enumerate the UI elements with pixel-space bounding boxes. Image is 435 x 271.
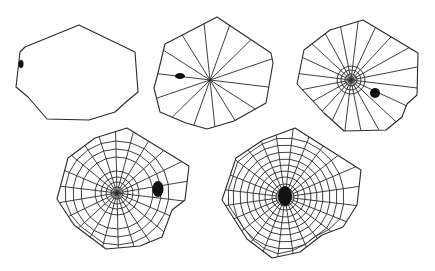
- spider-icon: [175, 73, 185, 79]
- web-stage-2: [154, 17, 273, 129]
- radial-thread: [72, 155, 118, 193]
- web-stage-1: [16, 25, 138, 120]
- radial-thread: [313, 80, 351, 101]
- spider-icon: [370, 88, 380, 98]
- web-stage-5: [222, 128, 361, 258]
- radial-thread: [210, 25, 230, 80]
- radial-thread: [172, 80, 210, 117]
- radial-thread: [351, 80, 379, 130]
- frame-thread: [16, 25, 138, 120]
- spider-icon: [278, 186, 292, 206]
- web-stage-4: [57, 128, 189, 249]
- radial-thread: [117, 193, 118, 248]
- radial-thread: [99, 137, 117, 193]
- radial-thread: [210, 59, 272, 80]
- spider-icon: [153, 181, 164, 197]
- radial-thread: [194, 80, 210, 125]
- radial-thread: [351, 27, 375, 80]
- radial-thread: [157, 80, 210, 98]
- spider-icon: [19, 60, 24, 68]
- web-stage-3: [297, 20, 418, 131]
- radial-thread: [325, 34, 351, 80]
- radial-thread: [117, 193, 134, 247]
- radial-thread: [351, 22, 358, 81]
- radial-thread: [210, 40, 251, 80]
- spider-web-stages-diagram: [0, 0, 435, 271]
